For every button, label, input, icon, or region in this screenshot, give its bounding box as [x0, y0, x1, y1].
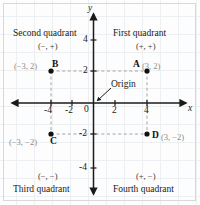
x-axis-name: x [188, 104, 192, 114]
origin-zero-label: 0 [84, 105, 89, 115]
coordinate-plane-figure: Second quadrant (−, +) First quadrant (+… [0, 0, 200, 205]
point-letter-d: D [152, 131, 159, 141]
y-tick-label-pos4: 4 [83, 35, 88, 45]
y-tick-label-neg2: -2 [79, 129, 87, 139]
quadrant-label-third: Third quadrant [13, 185, 70, 195]
point-coord-d: (3, −2) [161, 133, 184, 142]
y-tick-label-neg4: -4 [79, 163, 87, 173]
point-coord-c: (−3, −2) [9, 138, 37, 147]
origin-callout-arrow [97, 88, 111, 101]
x-tick-label-neg2: -2 [65, 106, 73, 116]
point-coord-b: (−3, 2) [14, 62, 37, 71]
point-letter-a: A [133, 60, 140, 70]
quadrant-label-fourth: Fourth quadrant [113, 185, 174, 195]
quadrant-label-first: First quadrant [113, 29, 166, 39]
point-letter-c: C [50, 137, 57, 147]
quadrant-signs-third: (−, −) [38, 172, 58, 181]
quadrant-signs-first: (+, +) [136, 42, 156, 51]
y-tick-label-pos2: 2 [83, 66, 88, 76]
x-tick-label-pos4: 4 [144, 106, 149, 116]
quadrant-signs-fourth: (+, −) [136, 172, 156, 181]
point-letter-b: B [52, 60, 58, 70]
quadrant-signs-second: (−, +) [38, 42, 58, 51]
x-tick-label-neg4: -4 [44, 106, 52, 116]
y-axis-name: y [88, 4, 92, 14]
point-marker-d [144, 131, 149, 136]
point-coord-a: (3, 2) [142, 62, 160, 71]
origin-label: Origin [111, 80, 136, 90]
x-tick-label-pos2: 2 [112, 106, 117, 116]
quadrant-label-second: Second quadrant [13, 29, 77, 39]
